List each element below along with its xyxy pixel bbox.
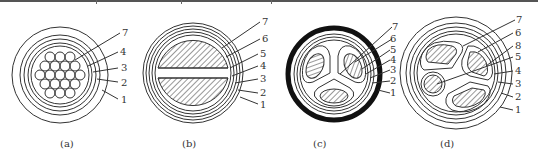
label-b-6: 6 bbox=[262, 33, 268, 44]
label-d-4: 4 bbox=[515, 65, 521, 76]
caption-d: (d) bbox=[440, 138, 454, 149]
label-c-3: 3 bbox=[390, 64, 396, 75]
label-b-3: 3 bbox=[260, 73, 266, 84]
panel-b bbox=[143, 22, 260, 123]
label-b-1: 1 bbox=[260, 99, 266, 110]
label-b-2: 2 bbox=[260, 87, 266, 98]
label-a-7: 7 bbox=[122, 27, 128, 38]
label-a-4: 4 bbox=[120, 46, 126, 57]
label-c-7: 7 bbox=[392, 21, 398, 32]
panel-c bbox=[288, 27, 392, 120]
label-c-2: 2 bbox=[390, 75, 396, 86]
label-d-3: 3 bbox=[515, 78, 521, 89]
caption-c: (c) bbox=[313, 138, 327, 149]
label-d-1: 1 bbox=[515, 104, 521, 115]
label-b-5: 5 bbox=[260, 48, 266, 59]
label-b-7: 7 bbox=[262, 16, 268, 27]
label-a-1: 1 bbox=[121, 94, 127, 105]
caption-b: (b) bbox=[182, 138, 196, 149]
cable-cross-sections-figure: 7 4 3 2 1 (a) 7 6 5 4 3 2 1 (b) bbox=[0, 0, 538, 162]
label-d-8: 8 bbox=[515, 40, 521, 51]
label-d-6: 6 bbox=[515, 27, 521, 38]
caption-a: (a) bbox=[60, 138, 74, 149]
label-a-3: 3 bbox=[121, 62, 127, 73]
label-d-5: 5 bbox=[515, 51, 521, 62]
panel-a bbox=[12, 27, 120, 123]
label-d-2: 2 bbox=[515, 91, 521, 102]
label-a-2: 2 bbox=[121, 77, 127, 88]
panel-d bbox=[400, 17, 515, 129]
label-b-4: 4 bbox=[260, 60, 266, 71]
label-c-1: 1 bbox=[390, 87, 396, 98]
label-d-7: 7 bbox=[516, 14, 522, 25]
label-c-6: 6 bbox=[390, 33, 396, 44]
